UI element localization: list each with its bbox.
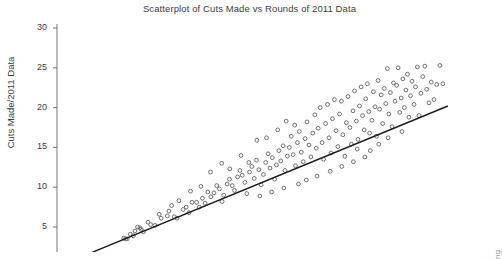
scatter-points — [122, 64, 445, 241]
y-tick-label: 30 — [25, 23, 47, 32]
y-tick-label: 5 — [25, 222, 47, 231]
y-tick-label: 25 — [25, 63, 47, 72]
y-tick-label: 20 — [25, 103, 47, 112]
edge-text-fragment: ng — [493, 250, 502, 259]
y-axis-ticks — [53, 28, 57, 227]
y-tick-label: 15 — [25, 142, 47, 151]
y-tick-label: 10 — [25, 182, 47, 191]
